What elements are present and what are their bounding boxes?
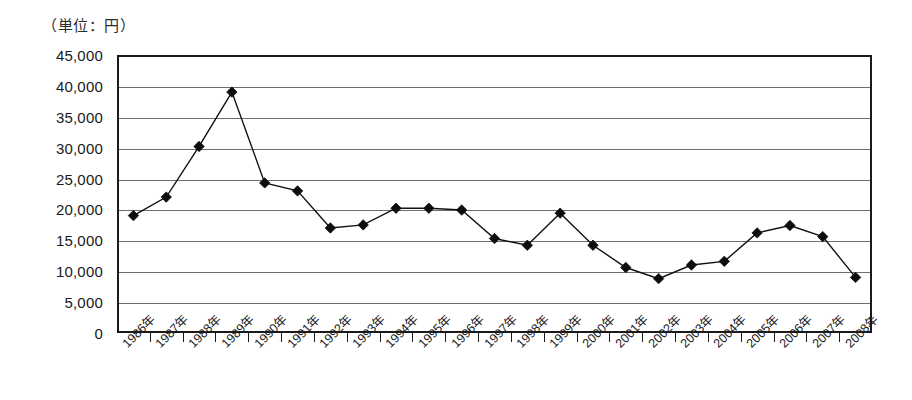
data-point-marker [785, 220, 795, 230]
data-point-marker [424, 203, 434, 213]
data-point-marker [161, 192, 171, 202]
data-point-marker [621, 262, 631, 272]
data-point-marker [391, 203, 401, 213]
data-point-marker [194, 141, 204, 151]
data-point-marker [358, 220, 368, 230]
data-point-marker [260, 178, 270, 188]
data-point-marker [227, 87, 237, 97]
data-point-marker [653, 273, 663, 283]
data-point-marker [128, 210, 138, 220]
data-point-marker [686, 260, 696, 270]
series-layer [0, 0, 912, 400]
series-line [133, 92, 855, 279]
chart-container: （単位：円） 45,00040,00035,00030,00025,00020,… [0, 0, 912, 400]
